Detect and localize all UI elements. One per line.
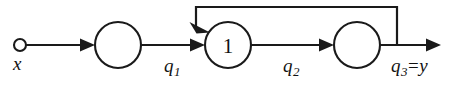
label-q3-output-value: y (419, 55, 427, 76)
label-q3-equals: = (408, 55, 420, 76)
edge-q2-arrowhead (319, 39, 334, 52)
label-q2-subscript: 2 (293, 64, 300, 79)
label-input-x-base: x (13, 53, 21, 74)
node-3-circle (334, 22, 380, 68)
label-input-x: x (13, 54, 21, 73)
edge-output-arrowhead (426, 39, 441, 52)
signal-flow-diagram: 1 x q1 q2 q3=y (0, 0, 452, 86)
label-q3-base: q (391, 55, 401, 76)
label-signal-q1: q1 (164, 56, 181, 78)
diagram-canvas: 1 (0, 0, 452, 86)
input-terminal-circle (14, 39, 26, 51)
node-2-label: 1 (223, 34, 234, 58)
label-q2-base: q (283, 55, 293, 76)
label-signal-q3-output: q3=y (391, 56, 428, 78)
label-q1-subscript: 1 (174, 64, 181, 79)
edge-input-arrowhead (80, 39, 95, 52)
node-1-circle (95, 22, 141, 68)
label-q3-subscript: 3 (401, 64, 408, 79)
edge-q1-arrowhead (190, 39, 205, 52)
label-signal-q2: q2 (283, 56, 300, 78)
label-q1-base: q (164, 55, 174, 76)
edge-feedback-arrowhead (190, 22, 211, 34)
